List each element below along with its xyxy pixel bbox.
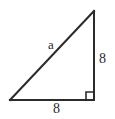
right-triangle-figure: a 8 8 (0, 0, 115, 119)
hypotenuse-label: a (48, 38, 54, 51)
horizontal-leg-label: 8 (53, 102, 60, 116)
right-angle-marker-icon (86, 92, 94, 100)
vertical-leg-label: 8 (99, 52, 106, 66)
hypotenuse-line (10, 11, 94, 100)
